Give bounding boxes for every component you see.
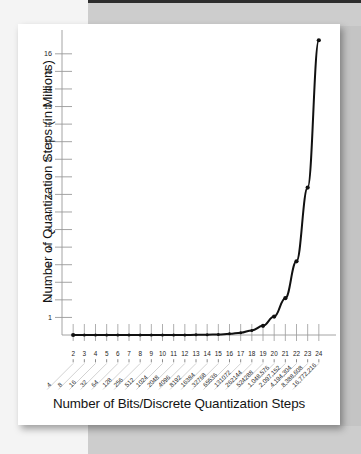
svg-text:14: 14 — [204, 350, 212, 357]
svg-text:32: 32 — [78, 378, 88, 388]
figure-page: 12345678910111213141516 2345678910111213… — [18, 24, 340, 425]
svg-text:13: 13 — [192, 350, 200, 357]
svg-text:9: 9 — [150, 350, 154, 357]
svg-text:20: 20 — [271, 350, 279, 357]
data-series — [71, 38, 321, 337]
svg-text:11: 11 — [170, 350, 177, 357]
svg-text:128: 128 — [101, 376, 114, 389]
x-axis-title: Number of Bits/Discrete Quantization Ste… — [18, 396, 340, 411]
svg-text:256: 256 — [112, 376, 125, 389]
x-step-labels: 4816326412825651210242048409681921638432… — [45, 361, 319, 390]
scan-gray-band-bottom — [88, 424, 361, 454]
svg-text:22: 22 — [293, 350, 301, 357]
svg-text:10: 10 — [159, 350, 167, 357]
svg-text:21: 21 — [282, 350, 290, 357]
y-axis-title: Number of Quantization Steps (in Million… — [40, 57, 55, 307]
x-tick-labels: 23456789101112131415161718192021222324 — [71, 350, 322, 362]
svg-text:4: 4 — [94, 350, 98, 357]
svg-text:8: 8 — [56, 380, 64, 388]
x-axis — [62, 324, 336, 341]
svg-text:6: 6 — [116, 350, 120, 357]
scan-gray-band-top — [88, 0, 361, 26]
scan-gray-right-edge — [340, 26, 361, 426]
svg-text:16: 16 — [67, 378, 77, 388]
svg-text:15: 15 — [215, 350, 223, 357]
svg-text:17: 17 — [237, 350, 245, 357]
svg-text:19: 19 — [259, 350, 267, 357]
svg-text:4: 4 — [45, 380, 53, 388]
svg-text:16: 16 — [226, 350, 234, 357]
svg-text:2: 2 — [71, 350, 75, 357]
svg-text:24: 24 — [315, 350, 323, 357]
svg-text:5: 5 — [105, 350, 109, 357]
chart-figure: 12345678910111213141516 2345678910111213… — [18, 24, 340, 425]
svg-text:512: 512 — [123, 376, 136, 389]
svg-text:64: 64 — [90, 378, 100, 388]
quantization-steps-line-chart: 12345678910111213141516 2345678910111213… — [18, 24, 340, 425]
svg-text:1: 1 — [48, 313, 52, 322]
svg-text:3: 3 — [83, 350, 87, 357]
svg-text:8: 8 — [138, 350, 142, 357]
svg-text:23: 23 — [304, 350, 312, 357]
svg-text:7: 7 — [127, 350, 131, 357]
svg-text:18: 18 — [248, 350, 256, 357]
svg-text:12: 12 — [181, 350, 189, 357]
